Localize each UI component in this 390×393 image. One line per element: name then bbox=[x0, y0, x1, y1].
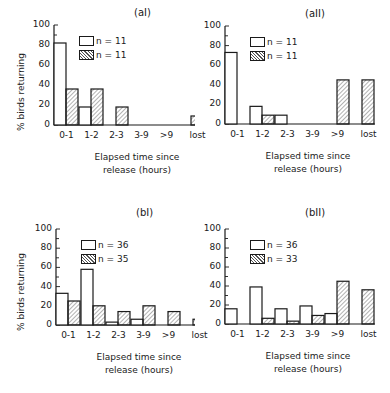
bar-open bbox=[275, 309, 287, 324]
bar-open bbox=[300, 306, 312, 324]
legend-item-open: n = 36 bbox=[81, 239, 128, 251]
legend-item-open: n = 11 bbox=[250, 36, 297, 48]
legend-label: n = 11 bbox=[96, 50, 126, 60]
bar-hatched bbox=[91, 89, 103, 125]
x-tick-label: 0-1 bbox=[54, 130, 80, 140]
legend-swatch-hatched bbox=[81, 254, 96, 264]
x-tick-label: >9 bbox=[156, 330, 182, 340]
legend-swatch-open bbox=[250, 37, 265, 47]
bar-hatched bbox=[262, 115, 274, 124]
legend-label: n = 33 bbox=[267, 254, 297, 264]
bar-hatched bbox=[116, 107, 128, 125]
legend-label: n = 35 bbox=[98, 254, 128, 264]
x-tick-label: 2-3 bbox=[275, 129, 301, 139]
x-axis-label: Elapsed time sincerelease (hours) bbox=[64, 351, 214, 377]
legend-swatch-hatched bbox=[250, 254, 265, 264]
bar-open bbox=[131, 319, 143, 325]
x-tick-label: >9 bbox=[325, 129, 351, 139]
x-tick-label: 0-1 bbox=[56, 330, 82, 340]
bar-open bbox=[225, 52, 237, 124]
bar-hatched bbox=[66, 89, 78, 125]
legend-swatch-open bbox=[79, 36, 94, 46]
legend-item-hatched: n = 11 bbox=[250, 50, 297, 62]
bar-open bbox=[250, 106, 262, 124]
x-axis-label-line: Elapsed time since bbox=[62, 151, 212, 164]
x-tick-label: 3-9 bbox=[300, 329, 326, 339]
legend-label: n = 11 bbox=[96, 36, 126, 46]
legend-item-hatched: n = 35 bbox=[81, 253, 128, 265]
x-tick-label: lost bbox=[356, 329, 382, 339]
legend-label: n = 36 bbox=[267, 240, 297, 250]
bar-hatched bbox=[118, 312, 130, 325]
legend-label: n = 11 bbox=[267, 51, 297, 61]
x-tick-label: 2-3 bbox=[104, 130, 130, 140]
x-tick-label: 1-2 bbox=[79, 130, 105, 140]
bar-open bbox=[275, 115, 287, 124]
bar-hatched bbox=[93, 306, 105, 325]
x-tick-label: 1-2 bbox=[250, 129, 276, 139]
legend-label: n = 11 bbox=[267, 37, 297, 47]
x-axis-label-line: release (hours) bbox=[233, 163, 383, 176]
x-tick-label: >9 bbox=[325, 329, 351, 339]
x-axis-label-line: Elapsed time since bbox=[233, 150, 383, 163]
bar-open bbox=[79, 107, 91, 125]
x-tick-label: 1-2 bbox=[81, 330, 107, 340]
legend-item-hatched: n = 33 bbox=[250, 253, 297, 265]
legend-swatch-hatched bbox=[79, 50, 94, 60]
x-axis-label-line: Elapsed time since bbox=[233, 350, 383, 363]
x-tick-label: >9 bbox=[154, 130, 180, 140]
legend-item-open: n = 11 bbox=[79, 35, 126, 47]
panel-bI: (bI)% birds returning0204060801000-11-22… bbox=[0, 196, 195, 392]
bar-open bbox=[81, 269, 93, 325]
x-tick-label: 2-3 bbox=[275, 329, 301, 339]
panel-bII: (bII)0204060801000-11-22-33-9>9lostElaps… bbox=[195, 196, 390, 392]
bar-hatched bbox=[337, 281, 349, 324]
x-tick-label: 2-3 bbox=[106, 330, 132, 340]
bar-hatched bbox=[362, 290, 374, 324]
x-tick-label: 3-9 bbox=[131, 330, 157, 340]
legend-item-open: n = 36 bbox=[250, 239, 297, 251]
legend-swatch-open bbox=[81, 240, 96, 250]
bar-open bbox=[54, 43, 66, 125]
bar-hatched bbox=[68, 301, 80, 325]
panel-aI: (aI)% birds returning0204060801000-11-22… bbox=[0, 0, 195, 196]
x-axis-label: Elapsed time sincerelease (hours) bbox=[62, 151, 212, 177]
legend-label: n = 36 bbox=[98, 240, 128, 250]
x-tick-label: 0-1 bbox=[225, 129, 251, 139]
x-tick-label: 1-2 bbox=[250, 329, 276, 339]
bar-open bbox=[56, 293, 68, 325]
x-axis-label-line: Elapsed time since bbox=[64, 351, 214, 364]
bar-hatched bbox=[143, 306, 155, 325]
panel-aII: (aII)0204060801000-11-22-33-9>9lostElaps… bbox=[195, 0, 390, 196]
bar-open bbox=[106, 322, 118, 325]
x-axis-label-line: release (hours) bbox=[233, 363, 383, 376]
bar-open bbox=[225, 309, 237, 324]
x-axis-label-line: release (hours) bbox=[64, 364, 214, 377]
bar-hatched bbox=[168, 312, 180, 325]
bar-hatched bbox=[262, 318, 274, 324]
bar-hatched bbox=[312, 315, 324, 324]
x-tick-label: 3-9 bbox=[300, 129, 326, 139]
x-axis-label: Elapsed time sincerelease (hours) bbox=[233, 350, 383, 376]
x-tick-label: 0-1 bbox=[225, 329, 251, 339]
legend-swatch-open bbox=[250, 240, 265, 250]
x-tick-label: 3-9 bbox=[129, 130, 155, 140]
x-tick-label: lost bbox=[356, 129, 382, 139]
bar-hatched bbox=[362, 80, 374, 124]
bar-open bbox=[250, 287, 262, 324]
legend-item-hatched: n = 11 bbox=[79, 49, 126, 61]
bar-hatched bbox=[337, 80, 349, 124]
x-axis-label: Elapsed time sincerelease (hours) bbox=[233, 150, 383, 176]
bar-open bbox=[325, 314, 337, 324]
legend-swatch-hatched bbox=[250, 51, 265, 61]
x-axis-label-line: release (hours) bbox=[62, 164, 212, 177]
bar-hatched bbox=[287, 321, 299, 324]
